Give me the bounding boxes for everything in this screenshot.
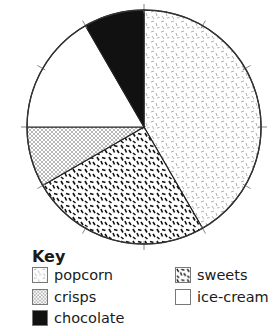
legend-item-crisps: crisps [32, 288, 96, 306]
sweets-swatch [175, 267, 191, 283]
legend-title: Key [32, 247, 65, 266]
ice-cream-swatch [175, 289, 191, 305]
chocolate-swatch [32, 310, 48, 326]
popcorn-swatch [32, 267, 48, 283]
legend-label: popcorn [54, 266, 113, 284]
legend-label: crisps [54, 288, 96, 306]
legend-item-chocolate: chocolate [32, 309, 124, 327]
legend-item-sweets: sweets [175, 266, 248, 284]
legend-item-ice-cream: ice-cream [175, 288, 269, 306]
legend-item-popcorn: popcorn [32, 266, 113, 284]
pie-chart [0, 0, 277, 250]
legend-label: ice-cream [197, 288, 269, 306]
legend-label: sweets [197, 266, 248, 284]
legend-label: chocolate [54, 309, 124, 327]
crisps-swatch [32, 289, 48, 305]
